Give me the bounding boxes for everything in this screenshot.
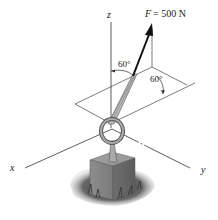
- z-axis-label: z: [106, 9, 111, 20]
- force-diagram: z F = 500 N 60° 60° x y: [0, 0, 218, 220]
- angle-label-plane: 60°: [150, 74, 163, 84]
- angle-arc-z: [111, 70, 133, 76]
- angle-label-z: 60°: [118, 59, 131, 69]
- y-axis-label: y: [200, 164, 206, 175]
- diagram-canvas: z F = 500 N 60° 60° x y: [0, 0, 218, 220]
- x-axis-label: x: [9, 162, 15, 173]
- force-magnitude: = 500 N: [153, 8, 186, 19]
- force-symbol: F: [144, 8, 152, 19]
